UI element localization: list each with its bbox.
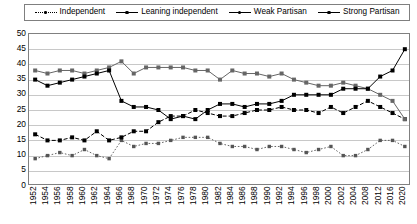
series-line (35, 61, 405, 119)
data-point (230, 114, 234, 118)
legend-marker-solid-line-icon (229, 8, 251, 17)
data-point (243, 72, 247, 76)
y-tick-label: 35 (2, 74, 26, 82)
data-point (341, 87, 345, 91)
data-point (329, 84, 333, 88)
data-point (378, 93, 382, 97)
data-point (119, 135, 123, 139)
data-point (342, 154, 345, 157)
data-point (292, 93, 296, 97)
x-tick-label: 1954 (41, 186, 52, 222)
data-point (378, 75, 382, 79)
data-point (156, 108, 160, 112)
data-point (95, 72, 99, 76)
data-point (132, 105, 136, 109)
x-tick-label: 1986 (238, 186, 249, 222)
data-point (132, 129, 136, 133)
data-point (82, 138, 86, 142)
data-point (206, 136, 209, 139)
x-tick-label: 1964 (103, 186, 114, 222)
data-point (206, 108, 210, 112)
series-line (35, 101, 405, 141)
data-point (33, 78, 37, 82)
x-tick-label: 1976 (177, 186, 188, 222)
chart-legend: Independent Leaning independent Weak Par… (24, 4, 410, 21)
y-tick-label: 50 (2, 29, 26, 37)
data-point (292, 78, 296, 82)
data-point (255, 102, 259, 106)
data-point (231, 145, 234, 148)
data-point (354, 87, 358, 91)
data-point (329, 93, 333, 97)
data-point (267, 102, 271, 106)
x-tick-label: 1962 (90, 186, 101, 222)
data-point (157, 142, 160, 145)
data-point (378, 105, 382, 109)
data-point (181, 65, 185, 69)
data-point (58, 138, 62, 142)
data-point (156, 120, 160, 124)
x-tick-label: 1972 (152, 186, 163, 222)
data-point (70, 68, 74, 72)
legend-item-independent: Independent (35, 8, 106, 17)
data-point (107, 68, 111, 72)
data-point (317, 93, 321, 97)
data-point (181, 136, 184, 139)
data-point (132, 72, 136, 76)
x-tick-label: 1970 (140, 186, 151, 222)
data-point (243, 145, 246, 148)
data-point (255, 108, 259, 112)
data-point (45, 84, 49, 88)
data-point (218, 142, 221, 145)
x-tick-label: 1998 (312, 186, 323, 222)
data-point (280, 99, 284, 103)
data-point (329, 145, 332, 148)
data-point (144, 105, 148, 109)
x-tick-label: 1994 (287, 186, 298, 222)
x-tick-label: 1982 (214, 186, 225, 222)
data-point (329, 105, 333, 109)
data-point (218, 114, 222, 118)
series-weak-partisan (33, 59, 407, 121)
data-point (354, 154, 357, 157)
y-tick-label: 5 (2, 165, 26, 173)
y-tick-label: 25 (2, 105, 26, 113)
data-point (169, 139, 172, 142)
data-point (132, 145, 135, 148)
data-point (33, 157, 36, 160)
data-point (341, 81, 345, 85)
data-point (119, 59, 123, 63)
y-tick-label: 15 (2, 135, 26, 143)
data-point (58, 81, 62, 85)
data-point (70, 154, 73, 157)
data-point (230, 102, 234, 106)
data-point (83, 148, 86, 151)
series-layer (29, 34, 410, 185)
data-point (181, 114, 185, 118)
data-point (243, 111, 247, 115)
data-point (280, 145, 283, 148)
data-point (391, 68, 395, 72)
data-point (58, 68, 62, 72)
data-point (354, 105, 358, 109)
data-point (33, 132, 37, 136)
data-point (267, 108, 271, 112)
x-tick-label: 2000 (324, 186, 335, 222)
x-tick-label: 1978 (189, 186, 200, 222)
data-point (292, 108, 296, 112)
x-tick-label: 2008 (361, 186, 372, 222)
legend-marker-dotted-line-icon (35, 8, 57, 17)
x-tick-label: 2012 (374, 186, 385, 222)
data-point (305, 151, 308, 154)
x-tick-label: 2004 (349, 186, 360, 222)
x-tick-label: 1980 (201, 186, 212, 222)
data-point (144, 129, 148, 133)
data-point (70, 78, 74, 82)
data-point (304, 93, 308, 97)
data-point (45, 138, 49, 142)
data-point (280, 105, 284, 109)
data-point (193, 117, 197, 121)
x-tick-label: 1968 (127, 186, 138, 222)
y-tick-label: 30 (2, 89, 26, 97)
data-point (144, 142, 147, 145)
